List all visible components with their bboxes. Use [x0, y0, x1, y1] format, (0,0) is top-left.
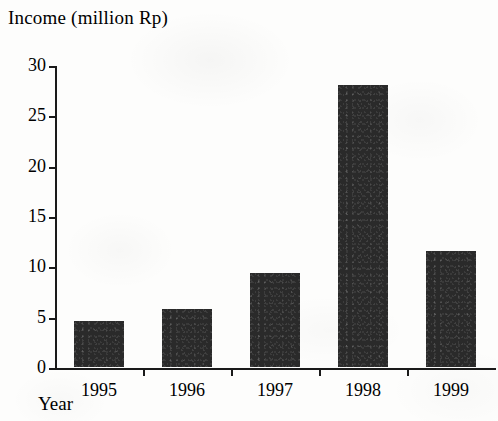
x-axis-line	[55, 368, 496, 370]
y-axis-tick-label: 25	[6, 105, 46, 125]
plot-area: 051015202530 19951996199719981999	[55, 66, 495, 369]
bar	[338, 85, 388, 367]
x-axis-tick-label: 1997	[231, 379, 319, 401]
x-axis-tick-mark	[143, 368, 145, 376]
y-axis-tick-label: 15	[6, 206, 46, 226]
y-axis-tick-mark	[49, 116, 56, 118]
y-axis-tick-label: 30	[6, 55, 46, 75]
y-axis-tick-label: 0	[6, 357, 46, 377]
y-axis-tick-mark	[49, 368, 56, 370]
x-axis-tick-label: 1996	[143, 379, 231, 401]
chart-title: Income (million Rp)	[8, 6, 168, 30]
y-axis-tick-mark	[49, 66, 56, 68]
bar-chart-figure: Income (million Rp) 051015202530 1995199…	[0, 0, 498, 421]
bar	[426, 251, 476, 367]
x-axis-tick-mark	[407, 368, 409, 376]
x-axis-tick-mark	[231, 368, 233, 376]
y-axis-tick-label: 10	[6, 256, 46, 276]
y-axis-tick-label: 5	[6, 307, 46, 327]
y-axis-tick-mark	[49, 318, 56, 320]
bar	[250, 273, 300, 367]
x-axis-title: Year	[38, 392, 73, 416]
x-axis-tick-mark	[319, 368, 321, 376]
y-axis-tick-label: 20	[6, 156, 46, 176]
y-axis-tick-mark	[49, 267, 56, 269]
x-axis-tick-label: 1998	[319, 379, 407, 401]
x-axis-tick-label: 1999	[407, 379, 495, 401]
bar	[74, 321, 124, 367]
y-axis-tick-mark	[49, 217, 56, 219]
bar	[162, 309, 212, 367]
y-axis-tick-mark	[49, 167, 56, 169]
